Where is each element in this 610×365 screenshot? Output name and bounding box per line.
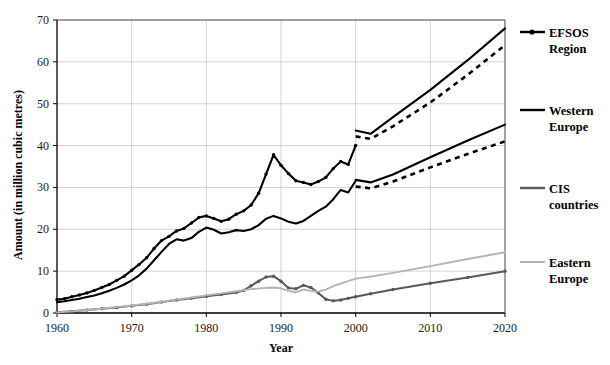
series-marker [123,274,126,277]
series-marker [175,229,178,232]
x-tick-label: 1980 [194,321,218,335]
series-marker [339,160,342,163]
series-marker [324,297,327,300]
series-marker [466,276,469,279]
series-marker [145,256,148,259]
series-marker [324,176,327,179]
line-chart: 0102030405060701960197019801990200020102… [0,0,610,365]
series-marker [503,269,506,272]
series-marker [227,218,230,221]
series-marker [182,227,185,230]
legend-label-line2[interactable]: Europe [549,120,589,134]
legend-label-line1[interactable]: Western [549,104,593,118]
series-marker [115,279,118,282]
series-marker [272,153,275,156]
series-marker [152,247,155,250]
series-marker [347,163,350,166]
series-marker [249,203,252,206]
x-tick-label: 2000 [344,321,368,335]
series-marker [287,286,290,289]
series-marker [55,298,58,301]
series-marker [100,286,103,289]
x-tick-label: 2010 [418,321,442,335]
series-marker [272,274,275,277]
series-marker [347,297,350,300]
y-tick-label: 10 [37,264,49,278]
series-marker [294,287,297,290]
x-tick-label: 2020 [493,321,517,335]
series-marker [309,183,312,186]
series-marker [70,295,73,298]
y-tick-label: 0 [43,306,49,320]
series-marker [317,180,320,183]
series-marker [302,181,305,184]
series-marker [167,235,170,238]
legend-label-line2[interactable]: Region [549,42,587,56]
series-marker [242,209,245,212]
legend-label-line2[interactable]: countries [549,198,598,212]
y-tick-label: 40 [37,139,49,153]
series-marker [279,279,282,282]
y-tick-label: 60 [37,55,49,69]
y-tick-label: 70 [37,13,49,27]
chart-page: 0102030405060701960197019801990200020102… [0,0,610,365]
series-marker [294,179,297,182]
x-axis-title: Year [269,341,294,355]
x-tick-label: 1990 [269,321,293,335]
series-marker [197,216,200,219]
series-marker [130,269,133,272]
legend-label-line1[interactable]: Eastern [549,256,591,270]
series-marker [332,299,335,302]
axes [53,20,505,317]
series-marker [339,298,342,301]
x-tick-label: 1960 [45,321,69,335]
legend-marker-1 [529,29,534,34]
series-marker [93,289,96,292]
series-marker [78,293,81,296]
legend-label-line2[interactable]: Europe [549,272,589,286]
series-marker [309,286,312,289]
series-marker [160,239,163,242]
tick-labels: 0102030405060701960197019801990200020102… [37,13,517,335]
y-tick-label: 50 [37,97,49,111]
series-marker [264,172,267,175]
series-marker [257,279,260,282]
chart-legend: EFSOSRegionWesternEuropeCIScountriesEast… [520,26,598,286]
y-axis-title: Amount (in million cubic metres) [11,90,25,260]
series-marker [212,217,215,220]
series-marker [190,221,193,224]
series-marker [205,214,208,217]
series-marker [302,284,305,287]
series-marker [63,297,66,300]
x-tick-label: 1970 [120,321,144,335]
series-marker [264,275,267,278]
legend-label-line1[interactable]: CIS [549,182,570,196]
series-marker [391,288,394,291]
legend-label-line1[interactable]: EFSOS [549,26,589,40]
series-marker [429,282,432,285]
series-marker [137,263,140,266]
y-tick-label: 20 [37,222,49,236]
series-marker [108,283,111,286]
series-marker [332,167,335,170]
series-marker [235,213,238,216]
series-marker [257,192,260,195]
series-marker [220,220,223,223]
series-marker [354,295,357,298]
y-tick-label: 30 [37,180,49,194]
series-marker [249,284,252,287]
series-marker [287,172,290,175]
series-marker [354,144,357,147]
series-marker [85,291,88,294]
series-marker [279,164,282,167]
series-marker [369,292,372,295]
